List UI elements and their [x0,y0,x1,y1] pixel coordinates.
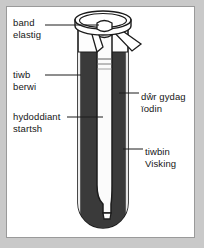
label-dwr-gydag-iodin-line1: dŵr gydag [141,91,186,103]
label-tiwbin-visking-line2: Visking [145,158,176,170]
label-tiwb-berwi-line2: berwi [13,81,36,93]
label-dwr-gydag-iodin: dŵr gydag ïodin [141,91,186,114]
figure-panel: band elastig tiwb berwi hydoddiant start… [6,6,195,238]
label-band-elastig: band elastig [13,17,41,40]
label-tiwbin-visking: tiwbin Visking [145,146,176,169]
label-tiwb-berwi: tiwb berwi [13,69,36,92]
label-tiwb-berwi-line1: tiwb [13,69,36,81]
label-hydoddiant-startsh: hydoddiant startsh [13,111,60,134]
visking-knot [103,213,111,219]
visking-tubing [95,35,114,219]
label-hydoddiant-startsh-line1: hydoddiant [13,111,60,123]
label-tiwbin-visking-line1: tiwbin [145,146,176,158]
band-over-rim [97,21,112,32]
label-band-elastig-line1: band [13,17,41,29]
label-hydoddiant-startsh-line2: startsh [13,123,60,135]
label-band-elastig-line2: elastig [13,29,41,41]
rim-ellipse [75,11,131,35]
label-dwr-gydag-iodin-line2: ïodin [141,103,186,115]
visking-tubing-wall [97,35,112,213]
